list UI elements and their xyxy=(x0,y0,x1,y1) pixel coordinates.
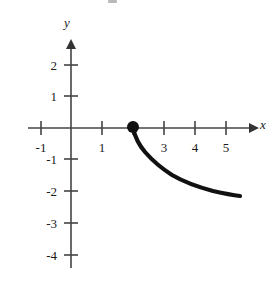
y-axis-arrow-icon xyxy=(66,39,76,49)
y-tick-label-1: 1 xyxy=(51,89,58,104)
x-tick-label-3: 3 xyxy=(161,140,168,155)
plot-canvas: -1 1 3 4 5 2 1 -1 -2 -3 -4 y x xyxy=(0,0,275,291)
x-tick-label-neg1: -1 xyxy=(36,140,47,155)
plotted-curve xyxy=(133,128,240,196)
y-axis xyxy=(64,39,78,268)
top-clipped-artifact xyxy=(108,0,117,3)
x-tick-label-1: 1 xyxy=(99,140,106,155)
graph-figure: -1 1 3 4 5 2 1 -1 -2 -3 -4 y x xyxy=(0,0,275,291)
y-tick-label-neg2: -2 xyxy=(46,184,57,199)
y-tick-label-neg1: -1 xyxy=(46,152,57,167)
x-axis-label: x xyxy=(259,117,266,132)
x-axis xyxy=(28,121,259,135)
endpoint-dot xyxy=(127,121,139,133)
x-tick-label-5: 5 xyxy=(223,140,230,155)
y-tick-label-neg3: -3 xyxy=(46,216,57,231)
y-tick-label-2: 2 xyxy=(51,58,58,73)
x-axis-arrow-icon xyxy=(249,123,259,133)
x-tick-label-4: 4 xyxy=(192,140,199,155)
y-tick-label-neg4: -4 xyxy=(46,248,57,263)
y-axis-label: y xyxy=(62,15,70,30)
x-tick-labels: -1 1 3 4 5 xyxy=(36,140,230,155)
y-tick-labels: 2 1 -1 -2 -3 -4 xyxy=(46,58,57,263)
